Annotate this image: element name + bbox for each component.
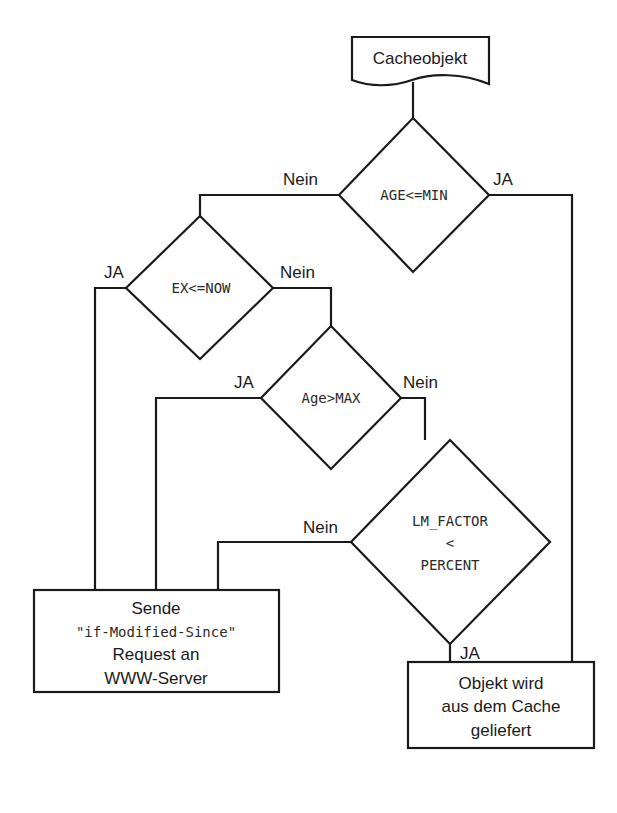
connector-d4-no (218, 542, 351, 590)
no-label: Nein (280, 263, 315, 282)
process-line-2: "if-Modified-Since" (76, 624, 236, 640)
yes-label: JA (104, 263, 125, 282)
condition-text: Age>MAX (301, 390, 361, 406)
connector-d3-no (401, 398, 425, 440)
yes-label: JA (493, 170, 514, 189)
flowchart: Cacheobjekt AGE<=MIN Nein JA EX<=NOW JA … (0, 0, 617, 813)
yes-label: JA (234, 373, 255, 392)
process-line-3: Request an (113, 645, 200, 664)
condition-text: AGE<=MIN (380, 187, 447, 203)
process-deliver-from-cache: Objekt wird aus dem Cache geliefert (408, 662, 594, 748)
connector-d3-yes (156, 398, 261, 590)
connector-d2-no (273, 288, 331, 326)
no-label: Nein (403, 373, 438, 392)
start-label: Cacheobjekt (373, 49, 468, 68)
condition-line-2: < (446, 535, 454, 551)
no-label: Nein (303, 518, 338, 537)
start-node: Cacheobjekt (352, 37, 489, 85)
connector-d2-yes (95, 288, 126, 590)
process-line-4: WWW-Server (104, 669, 208, 688)
process-line-3: geliefert (471, 721, 532, 740)
connector-d1-no (200, 195, 339, 216)
process-line-2: aus dem Cache (441, 697, 560, 716)
decision-lm-factor: LM_FACTOR < PERCENT Nein JA (303, 440, 550, 663)
no-label: Nein (283, 170, 318, 189)
condition-text: EX<=NOW (171, 280, 231, 296)
process-send-request: Sende "if-Modified-Since" Request an WWW… (34, 590, 279, 692)
process-line-1: Sende (131, 599, 180, 618)
condition-line-1: LM_FACTOR (412, 513, 488, 530)
yes-label: JA (460, 644, 481, 663)
condition-line-3: PERCENT (420, 557, 480, 573)
process-line-1: Objekt wird (458, 674, 543, 693)
